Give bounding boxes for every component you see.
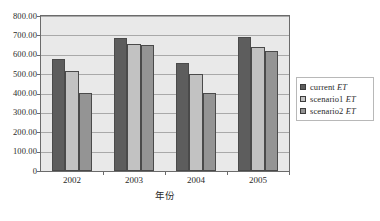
y-axis-tick-label: 0: [0, 167, 37, 176]
y-axis-tick-label: 200.00: [0, 128, 37, 137]
legend-item-label: scenario2 ET: [310, 106, 356, 116]
bar: [52, 59, 65, 171]
x-axis-tick-label: 2002: [41, 175, 103, 186]
chart-legend: current ETscenario1 ETscenario2 ET: [296, 77, 374, 121]
bar: [189, 74, 202, 171]
x-axis-tick-label: 2004: [165, 175, 227, 186]
legend-color-swatch: [300, 96, 306, 102]
bar: [141, 45, 154, 172]
bar-group: [176, 16, 216, 171]
legend-item: scenario2 ET: [300, 105, 370, 117]
x-axis-title: 年份: [40, 190, 290, 202]
plot-area: [40, 15, 290, 172]
y-axis-tick-label: 600.00: [0, 50, 37, 59]
x-axis-tick-label: 2005: [227, 175, 289, 186]
legend-item: scenario1 ET: [300, 93, 370, 105]
legend-item-label: scenario1 ET: [310, 94, 356, 104]
grouped-bar-chart: 800.00700.00600.00500.00400.00300.00200.…: [0, 0, 380, 221]
x-axis-tick-label: 2003: [103, 175, 165, 186]
legend-color-swatch: [300, 84, 306, 90]
legend-item: current ET: [300, 81, 370, 93]
bar: [65, 71, 78, 171]
bar-group: [114, 16, 154, 171]
bar: [265, 51, 278, 171]
bar: [127, 44, 140, 171]
legend-item-label: current ET: [310, 82, 347, 92]
bar: [114, 38, 127, 171]
bar: [203, 93, 216, 171]
bar-group: [52, 16, 92, 171]
y-axis-tick-label: 800.00: [0, 12, 37, 21]
bar: [238, 37, 251, 171]
y-axis-tick-label: 300.00: [0, 108, 37, 117]
y-axis-tick-label: 700.00: [0, 31, 37, 40]
bar: [79, 93, 92, 171]
y-axis-tick-label: 100.00: [0, 147, 37, 156]
x-axis-tick-labels: 2002200320042005: [40, 175, 290, 187]
y-axis-tick-label: 400.00: [0, 89, 37, 98]
bar-group: [238, 16, 278, 171]
legend-label-italic-et: ET: [346, 106, 356, 116]
bar: [176, 63, 189, 171]
legend-color-swatch: [300, 108, 306, 114]
y-axis-tick-label: 500.00: [0, 70, 37, 79]
bar: [251, 47, 264, 171]
bars-layer: [41, 16, 289, 171]
y-axis-tick-labels: 800.00700.00600.00500.00400.00300.00200.…: [0, 0, 37, 221]
legend-label-italic-et: ET: [337, 82, 347, 92]
legend-label-italic-et: ET: [346, 94, 356, 104]
